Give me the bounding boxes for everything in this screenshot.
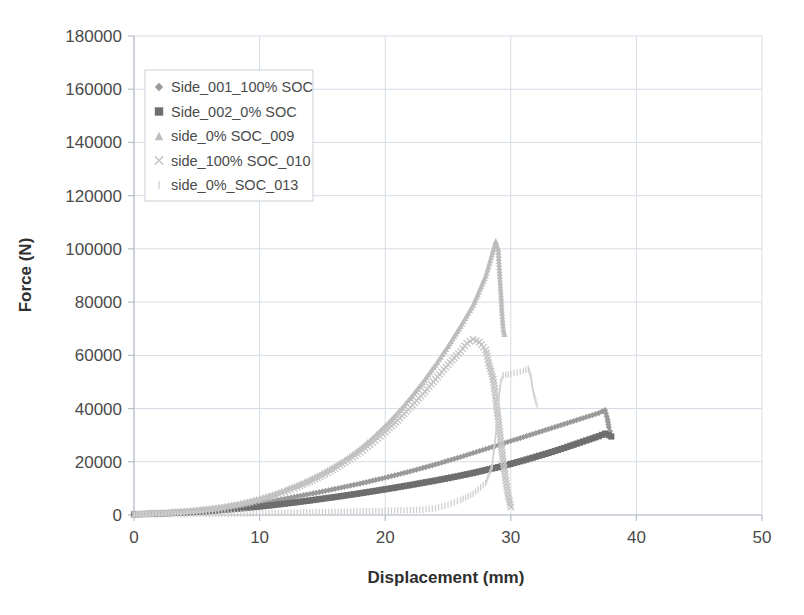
- force-displacement-chart: 0200004000060000800001000001200001400001…: [0, 0, 804, 615]
- legend-item[interactable]: Side_001_100% SOC: [155, 79, 313, 95]
- y-tick-label: 0: [113, 506, 122, 525]
- y-tick-label: 160000: [65, 80, 122, 99]
- x-axis-title: Displacement (mm): [368, 568, 525, 587]
- y-axis-title: Force (N): [16, 238, 35, 313]
- legend-item[interactable]: side_100% SOC_010: [155, 153, 311, 169]
- legend-item-label: Side_001_100% SOC: [171, 79, 313, 95]
- series-layer: [131, 238, 615, 518]
- chart-container: 0200004000060000800001000001200001400001…: [0, 0, 804, 615]
- x-axis-tick-labels: 01020304050: [129, 528, 771, 547]
- legend-item[interactable]: side_0%_SOC_013: [159, 177, 298, 193]
- x-tick-label: 40: [627, 528, 646, 547]
- square-marker: [155, 107, 163, 115]
- chart-legend[interactable]: Side_001_100% SOCSide_002_0% SOCside_0% …: [145, 70, 313, 201]
- y-tick-label: 40000: [75, 400, 122, 419]
- y-tick-label: 20000: [75, 453, 122, 472]
- y-tick-label: 140000: [65, 133, 122, 152]
- y-tick-label: 80000: [75, 293, 122, 312]
- y-tick-label: 180000: [65, 27, 122, 46]
- x-tick-label: 20: [376, 528, 395, 547]
- x-tick-label: 10: [250, 528, 269, 547]
- legend-item[interactable]: Side_002_0% SOC: [155, 104, 297, 120]
- y-tick-label: 120000: [65, 187, 122, 206]
- y-tick-label: 100000: [65, 240, 122, 259]
- x-tick-label: 50: [753, 528, 772, 547]
- x-tick-label: 0: [129, 528, 138, 547]
- legend-item[interactable]: side_0% SOC_009: [155, 128, 295, 144]
- y-axis-tick-labels: 0200004000060000800001000001200001400001…: [65, 27, 122, 525]
- legend-item-label: side_0%_SOC_013: [171, 177, 298, 193]
- legend-item-label: side_0% SOC_009: [171, 128, 294, 144]
- legend-item-label: side_100% SOC_010: [171, 153, 310, 169]
- y-tick-label: 60000: [75, 346, 122, 365]
- square-marker: [608, 433, 614, 439]
- legend-item-label: Side_002_0% SOC: [171, 104, 297, 120]
- x-tick-label: 30: [501, 528, 520, 547]
